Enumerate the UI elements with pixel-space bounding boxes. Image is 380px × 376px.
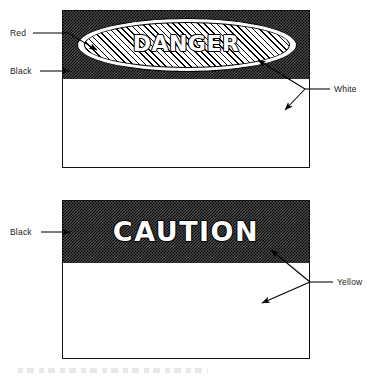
danger-header-band: DANGER xyxy=(63,11,309,79)
callout-label-danger-white: White xyxy=(334,85,357,94)
callout-label-caution-black: Black xyxy=(10,228,32,237)
danger-sign-panel: DANGER xyxy=(62,10,310,168)
diagram-canvas: DANGER CAUTION xyxy=(0,0,380,376)
caution-word: CAUTION xyxy=(63,218,309,245)
callout-label-danger-black: Black xyxy=(10,67,32,76)
danger-word: DANGER xyxy=(63,33,309,55)
caution-header-band: CAUTION xyxy=(63,201,309,263)
callout-label-danger-red: Red xyxy=(10,29,26,38)
scan-artifact xyxy=(18,368,208,373)
caution-sign-panel: CAUTION xyxy=(62,200,310,359)
callout-label-caution-yellow: Yellow xyxy=(337,278,362,287)
